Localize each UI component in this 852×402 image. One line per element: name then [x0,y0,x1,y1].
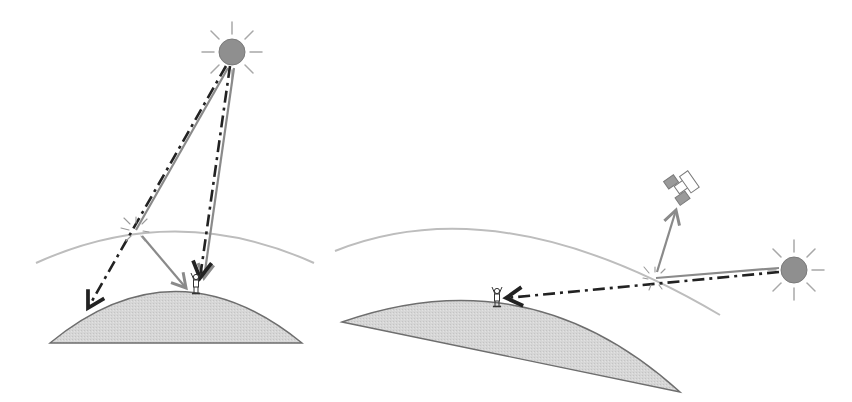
earth-surface [342,300,680,392]
scattered-ray-to-observer [142,236,186,288]
atmosphere-boundary [36,232,314,264]
sun-icon [202,22,262,82]
left-panel [36,22,314,343]
incident-ray-observer [204,68,234,278]
scattering-diagram [0,0,852,402]
scattered-ray-to-satellite [657,210,676,272]
sun-icon [768,240,824,300]
right-panel [335,167,824,392]
earth-surface [50,292,302,344]
scatter-burst-icon [121,217,149,241]
satellite-icon [664,167,702,206]
direct-ray-to-observer [506,272,779,298]
observer-icon [191,273,201,294]
direct-ray-to-observer [200,66,230,278]
